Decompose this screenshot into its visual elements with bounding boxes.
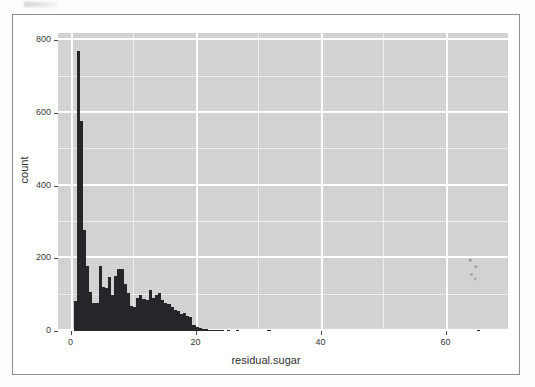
histogram-bar xyxy=(477,330,480,331)
x-tick-label: 20 xyxy=(181,338,211,347)
plot-panel xyxy=(58,33,508,331)
y-tick-label: 600 xyxy=(23,108,51,117)
x-tick-label: 60 xyxy=(431,338,461,347)
histogram-bar xyxy=(267,330,270,331)
histogram-bar xyxy=(227,330,230,331)
plot-area: 0200400600800 0204060 residual.sugar cou… xyxy=(12,14,520,375)
x-tick-label: 40 xyxy=(306,338,336,347)
y-tick-label: 0 xyxy=(23,326,51,335)
y-tick-mark xyxy=(54,186,58,187)
y-tick-mark xyxy=(54,113,58,114)
y-tick-label: 800 xyxy=(23,35,51,44)
x-tick-label: 0 xyxy=(56,338,86,347)
y-axis-title: count xyxy=(18,130,30,210)
histogram-bars xyxy=(58,33,508,331)
scan-artifact-top xyxy=(24,2,58,7)
x-tick-mark xyxy=(71,331,72,335)
x-tick-mark xyxy=(196,331,197,335)
x-tick-mark xyxy=(446,331,447,335)
histogram-bar xyxy=(221,330,224,331)
y-tick-mark xyxy=(54,331,58,332)
y-tick-mark xyxy=(54,258,58,259)
y-tick-mark xyxy=(54,40,58,41)
figure-screenshot: 0200400600800 0204060 residual.sugar cou… xyxy=(0,0,535,387)
y-tick-label: 200 xyxy=(23,253,51,262)
x-tick-mark xyxy=(321,331,322,335)
histogram-bar xyxy=(236,330,239,331)
x-axis-title: residual.sugar xyxy=(12,354,520,366)
